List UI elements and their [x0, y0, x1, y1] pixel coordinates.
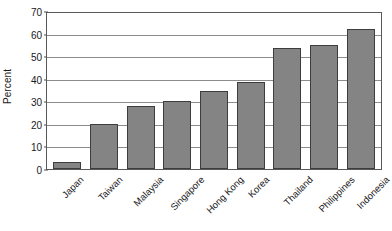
x-axis-tick-labels: JapanTaiwanMalaysiaSingaporeHong KongKor… [46, 170, 382, 231]
bar[interactable] [53, 162, 81, 169]
x-label-slot: Singapore [158, 170, 195, 231]
bar-slot [269, 13, 306, 169]
x-label-slot: Thailand [270, 170, 307, 231]
y-axis-tick-labels: 010203040506070 [16, 12, 44, 170]
x-tick-label: Korea [246, 174, 272, 200]
bars-layer [47, 13, 381, 169]
x-label-slot: Indonesia [345, 170, 382, 231]
y-tick-label: 40 [31, 74, 42, 85]
x-label-slot: Hong Kong [195, 170, 232, 231]
bar-slot [196, 13, 233, 169]
bar-slot [122, 13, 159, 169]
bar-slot [306, 13, 343, 169]
bar[interactable] [347, 29, 375, 169]
y-axis-title: Percent [0, 0, 16, 172]
y-axis-title-text: Percent [3, 68, 14, 103]
bar[interactable] [90, 124, 118, 169]
bar-slot [342, 13, 379, 169]
x-tick-label: Indonesia [355, 174, 392, 211]
bar-slot [232, 13, 269, 169]
bar[interactable] [127, 106, 155, 169]
x-label-slot: Philippines [307, 170, 344, 231]
y-tick-label: 30 [31, 97, 42, 108]
plot-area [46, 12, 382, 170]
bar[interactable] [310, 45, 338, 169]
x-label-slot: Taiwan [83, 170, 120, 231]
y-tick-label: 20 [31, 119, 42, 130]
bar[interactable] [237, 82, 265, 169]
bar[interactable] [273, 48, 301, 169]
bar-slot [49, 13, 86, 169]
y-tick-label: 70 [31, 7, 42, 18]
y-tick-label: 0 [36, 165, 42, 176]
x-tick-label: Japan [59, 174, 85, 200]
bar-slot [159, 13, 196, 169]
bar-slot [86, 13, 123, 169]
x-label-slot: Korea [233, 170, 270, 231]
x-label-slot: Malaysia [121, 170, 158, 231]
y-tick-label: 60 [31, 29, 42, 40]
bar[interactable] [163, 101, 191, 169]
x-label-slot: Japan [46, 170, 83, 231]
y-tick-label: 10 [31, 142, 42, 153]
y-tick-label: 50 [31, 52, 42, 63]
bar[interactable] [200, 91, 228, 169]
